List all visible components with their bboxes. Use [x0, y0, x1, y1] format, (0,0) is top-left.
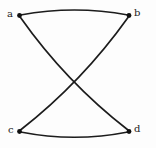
vertex-label-a: a	[7, 9, 13, 19]
vertex-label-d: d	[134, 124, 140, 134]
edge-a-b	[21, 10, 129, 15]
vertex-group	[17, 13, 131, 134]
edge-b-c	[21, 18, 129, 131]
vertex-dot-a	[17, 13, 22, 18]
vertex-dot-b	[127, 13, 132, 18]
graph-canvas	[0, 0, 156, 148]
vertex-dot-c	[17, 129, 22, 134]
graph-diagram: a b c d	[0, 0, 156, 148]
edge-a-d	[21, 18, 129, 131]
edge-group	[21, 10, 129, 137]
vertex-label-b: b	[134, 8, 140, 18]
vertex-dot-d	[127, 129, 132, 134]
vertex-label-c: c	[8, 125, 14, 135]
edge-c-d	[21, 132, 129, 137]
